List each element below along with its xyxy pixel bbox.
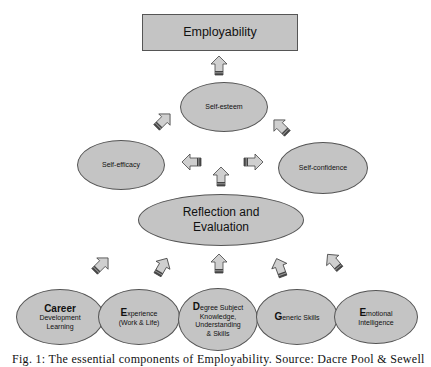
career-line2: Development xyxy=(39,314,80,322)
self-esteem-label: Self-esteem xyxy=(205,103,242,111)
arrow-left-icon xyxy=(182,154,201,170)
generic-skills-ellipse: Generic Skills xyxy=(256,289,338,345)
employability-box: Employability xyxy=(142,14,298,51)
emotional-line1: Emotional xyxy=(359,307,392,319)
arrow-up-right-icon xyxy=(151,254,174,278)
experience-rest: xperience xyxy=(127,310,157,317)
generic-rest: eneric Skills xyxy=(282,314,319,321)
experience-ellipse: Experience (Work & Life) xyxy=(98,289,180,345)
arrow-up-icon xyxy=(213,167,229,186)
arrow-right-icon xyxy=(244,154,263,170)
reflection-evaluation-ellipse: Reflection and Evaluation xyxy=(138,194,304,246)
reflection-label-line1: Reflection and xyxy=(183,205,260,220)
arrow-up-icon xyxy=(211,56,227,75)
figure-caption: Fig. 1: The essential components of Empl… xyxy=(12,352,425,367)
degree-line3: Understanding xyxy=(195,321,241,329)
experience-line1: Experience xyxy=(120,307,157,319)
career-label: Career xyxy=(44,303,76,314)
arrow-up-right-icon xyxy=(89,252,114,277)
degree-line1: Degree Subject xyxy=(193,301,243,313)
emotional-rest: motional xyxy=(366,310,392,317)
employability-label: Employability xyxy=(183,25,257,41)
degree-rest: egree Subject xyxy=(200,304,243,311)
emotional-intelligence-ellipse: Emotional Intelligence xyxy=(334,290,418,344)
self-confidence-label: Self-confidence xyxy=(299,164,347,172)
self-esteem-ellipse: Self-esteem xyxy=(180,82,268,132)
degree-line2: Knowledge, xyxy=(200,313,237,321)
degree-subject-ellipse: Degree Subject Knowledge, Understanding … xyxy=(178,288,258,351)
emotional-line2: Intelligence xyxy=(358,319,393,327)
arrow-up-left-icon xyxy=(321,249,345,274)
self-efficacy-ellipse: Self-efficacy xyxy=(77,140,165,190)
self-confidence-ellipse: Self-confidence xyxy=(278,142,368,194)
degree-line4: & Skills xyxy=(207,330,230,338)
arrow-up-icon xyxy=(211,254,227,273)
arrow-up-left-icon xyxy=(268,114,293,139)
career-development-learning-ellipse: Career Development Learning xyxy=(16,289,104,345)
self-efficacy-label: Self-efficacy xyxy=(102,161,140,169)
arrow-up-left-icon xyxy=(269,256,291,279)
reflection-label-line2: Evaluation xyxy=(193,220,249,235)
experience-line2: (Work & Life) xyxy=(119,319,160,327)
generic-line1: Generic Skills xyxy=(274,311,319,323)
degree-initial: D xyxy=(193,301,200,312)
arrow-up-right-icon xyxy=(151,108,176,133)
career-line3: Learning xyxy=(46,323,73,331)
